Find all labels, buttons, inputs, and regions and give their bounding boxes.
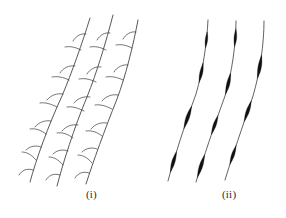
figure-drawing-canvas: [0, 0, 286, 218]
figure-container: (i) (ii): [0, 0, 286, 218]
panel-i-caption: (i): [86, 188, 97, 200]
figure-background: [0, 0, 286, 218]
panel-ii-caption: (ii): [222, 188, 236, 200]
